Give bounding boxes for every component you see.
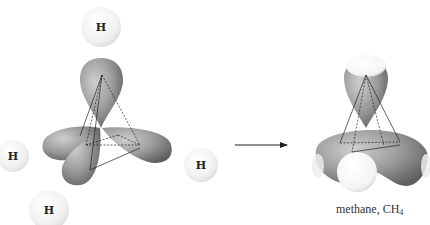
methane-caption: methane, CH4 xyxy=(336,202,403,217)
svg-text:H: H xyxy=(44,204,54,217)
sp3-orbitals-left xyxy=(42,58,171,185)
methane-hydrogen-left xyxy=(312,154,324,178)
caption-text: methane, CH xyxy=(336,202,399,216)
hydrogen-atom-right: H xyxy=(184,148,218,182)
hydrogen-atom-bottom: H xyxy=(29,190,69,225)
methane-formation-diagram: H H H H xyxy=(0,0,430,225)
methane-hydrogen-top xyxy=(346,55,386,77)
methane-hydrogen-front xyxy=(337,152,377,192)
caption-subscript: 4 xyxy=(399,208,403,217)
diagram-canvas: H H H H xyxy=(0,0,430,225)
hydrogen-atom-left: H xyxy=(0,140,29,172)
hydrogen-atom-top: H xyxy=(81,7,121,47)
svg-text:H: H xyxy=(196,159,206,172)
methane-molecule xyxy=(312,55,430,192)
svg-text:H: H xyxy=(8,150,18,163)
svg-text:H: H xyxy=(96,21,106,34)
